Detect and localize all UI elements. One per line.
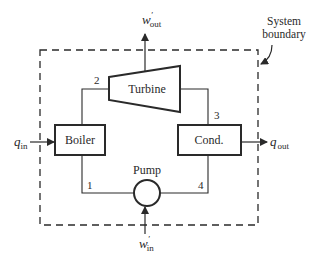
rankine-cycle-diagram: System boundary Turbine w′out Boiler qin… [0, 0, 310, 265]
heat-in-label: qin [14, 134, 28, 151]
turbine-label: Turbine [128, 82, 166, 96]
boundary-label-line1: System [267, 15, 301, 28]
pump-label: Pump [133, 163, 161, 177]
boiler-label: Boiler [65, 133, 95, 147]
boundary-pointer-arrow [261, 45, 272, 64]
state-point-2: 2 [94, 74, 100, 86]
work-out-label: w′out [142, 10, 162, 29]
pump [134, 180, 160, 206]
state-point-1: 1 [87, 179, 93, 191]
work-in-label: w′in [139, 234, 154, 253]
state-point-3: 3 [214, 109, 220, 121]
condenser-label: Cond. [194, 133, 223, 147]
heat-out-label: qout [270, 134, 290, 151]
boundary-label-line2: boundary [262, 28, 306, 41]
pipe-turbine-to-condenser [180, 89, 208, 125]
state-point-4: 4 [198, 179, 204, 191]
pipe-boiler-to-turbine [82, 89, 108, 125]
